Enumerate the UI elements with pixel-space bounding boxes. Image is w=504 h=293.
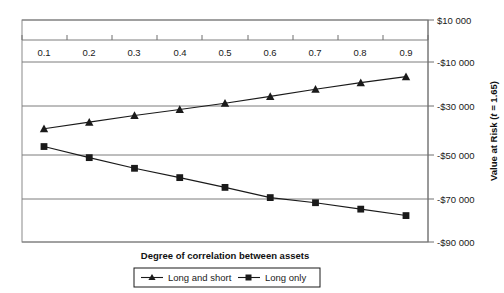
square-marker [131, 165, 138, 172]
x-tick-label: 0.7 [308, 47, 321, 58]
x-axis-title: Degree of correlation between assets [141, 250, 309, 261]
chart-figure: 0.1 0.2 0.3 0.4 0.5 0.6 0.7 0.8 0.9 $10 … [0, 0, 504, 293]
y-tick-label: -$10 000 [437, 57, 475, 68]
y-tick-label: $10 000 [437, 15, 471, 26]
x-tick-label: 0.2 [82, 47, 95, 58]
y-axis-title-prefix: Value at Risk ( [488, 116, 499, 181]
y-axis-title: Value at Risk (t = 1.65) [488, 81, 499, 181]
x-tick-label: 0.8 [353, 47, 366, 58]
square-marker [312, 199, 319, 206]
y-tick-label: -$70 000 [437, 194, 475, 205]
legend-label: Long and short [168, 272, 232, 283]
square-marker [41, 143, 48, 150]
legend: Long and short Long only [134, 268, 320, 287]
x-tick-label: 0.6 [263, 47, 276, 58]
x-tick-label: 0.3 [127, 47, 140, 58]
y-tick-label: -$30 000 [437, 101, 475, 112]
square-marker [403, 212, 410, 219]
square-marker [357, 206, 364, 213]
square-marker [86, 154, 93, 161]
x-tick-labels: 0.1 0.2 0.3 0.4 0.5 0.6 0.7 0.8 0.9 [37, 47, 412, 58]
x-tick-label: 0.9 [399, 47, 412, 58]
square-marker [267, 194, 274, 201]
legend-label: Long only [265, 272, 306, 283]
y-axis-title-suffix: = 1.65) [488, 81, 499, 113]
chart-svg: 0.1 0.2 0.3 0.4 0.5 0.6 0.7 0.8 0.9 $10 … [0, 0, 504, 293]
square-marker [176, 174, 183, 181]
x-tick-label: 0.4 [173, 47, 186, 58]
square-icon [246, 275, 252, 281]
square-marker [222, 184, 229, 191]
x-tick-label: 0.5 [218, 47, 231, 58]
x-tick-label: 0.1 [37, 47, 50, 58]
y-tick-label: -$50 000 [437, 150, 475, 161]
y-tick-label: -$90 000 [437, 237, 475, 248]
